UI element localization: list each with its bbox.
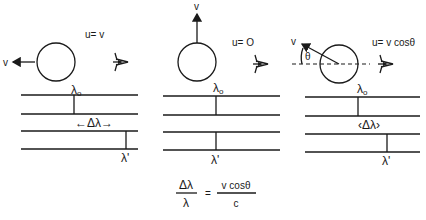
- angle-arc: [301, 48, 303, 64]
- relation-label: u= v: [85, 29, 104, 40]
- velocity-label: v: [3, 57, 8, 68]
- emitted-wavelength-label: λo: [357, 82, 368, 97]
- relation-label: u= v cosθ: [372, 37, 416, 48]
- equation-rhs-denominator: c: [234, 198, 239, 209]
- source-circle: [178, 43, 216, 81]
- observed-wavelength-label: λ': [121, 151, 129, 165]
- panel-oblique: v θ u= v cosθ λo ‹Δλ› λ': [291, 36, 420, 168]
- relation-label: u= O: [232, 37, 254, 48]
- eye-icon: [378, 55, 393, 73]
- emitted-wavelength-label: λo: [213, 81, 224, 96]
- panel-transverse: v u= O λo λ': [163, 1, 280, 167]
- eye-icon: [253, 55, 268, 73]
- equation-lhs-denominator: λ: [183, 196, 189, 210]
- velocity-label: v: [291, 36, 296, 47]
- doppler-equation: Δλ λ = v cosθ c: [176, 178, 256, 210]
- shift-label: ←Δλ→: [75, 116, 113, 130]
- velocity-label: v: [194, 1, 199, 12]
- source-circle: [37, 43, 75, 81]
- shift-label: ‹Δλ›: [358, 118, 380, 132]
- equation-rhs-numerator: v cosθ: [222, 180, 251, 191]
- eye-icon: [113, 53, 128, 71]
- equation-lhs-numerator: Δλ: [179, 178, 193, 192]
- observed-wavelength-label: λ': [211, 153, 219, 167]
- equation-equals: =: [205, 188, 211, 199]
- observed-wavelength-label: λ': [382, 154, 390, 168]
- panel-receding: v u= v λo ←Δλ→ λ': [3, 29, 138, 165]
- doppler-diagram: v u= v λo ←Δλ→ λ' v u= O λo: [0, 0, 426, 220]
- emitted-wavelength-label: λo: [71, 83, 82, 98]
- angle-label: θ: [305, 51, 311, 62]
